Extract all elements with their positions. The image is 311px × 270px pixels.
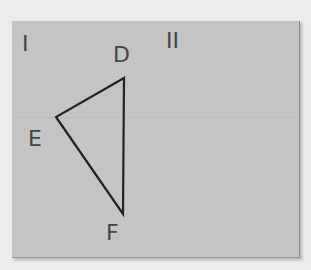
triangle-def <box>0 0 311 270</box>
